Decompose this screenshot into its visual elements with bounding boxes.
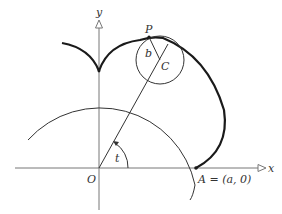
epicycloid-diagram: x y P b C t O A = (a, 0) — [0, 0, 282, 214]
epicycloid-main-lobe — [99, 37, 225, 168]
x-axis-arrow-icon — [258, 165, 266, 172]
cusp-dot — [98, 70, 101, 73]
label-b: b — [145, 47, 152, 60]
y-axis-label: y — [95, 6, 103, 19]
label-a: A = (a, 0) — [197, 173, 251, 186]
label-o: O — [87, 173, 96, 186]
x-axis-label: x — [268, 162, 275, 175]
fixed-circle — [28, 108, 195, 200]
epicycloid-left-arc — [62, 43, 99, 71]
point-a-dot — [194, 166, 198, 170]
y-axis-arrow-icon — [96, 20, 103, 28]
radius-line-oc — [99, 44, 168, 168]
label-p: P — [144, 23, 153, 36]
label-t: t — [115, 152, 120, 165]
label-c: C — [161, 60, 170, 73]
